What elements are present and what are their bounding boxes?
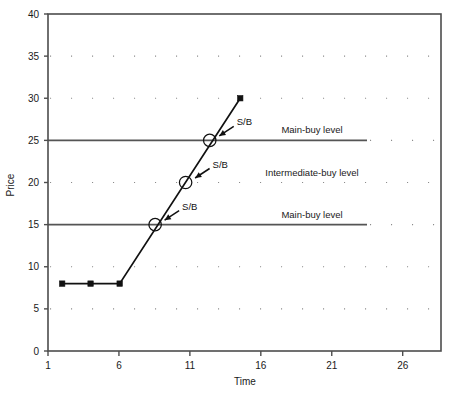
sb-annotation-label: S/B	[213, 159, 228, 170]
chart-canvas: 0510152025303540 1611162126 S/BS/BS/B Ma…	[0, 0, 452, 395]
x-axis-tick-label: 21	[326, 360, 338, 371]
chart-background	[0, 0, 452, 395]
price-data-marker	[238, 96, 243, 101]
x-axis-tick-label: 1	[45, 360, 51, 371]
y-axis-tick-label: 15	[28, 219, 40, 230]
price-time-chart: 0510152025303540 1611162126 S/BS/BS/B Ma…	[0, 0, 452, 395]
x-axis-title: Time	[234, 376, 256, 387]
sb-annotation-label: S/B	[237, 116, 252, 127]
y-axis-tick-label: 25	[28, 135, 40, 146]
buy-level-label: Main-buy level	[281, 124, 342, 135]
x-axis-tick-label: 16	[255, 360, 267, 371]
price-data-marker	[88, 281, 93, 286]
buy-level-label: Intermediate-buy level	[265, 167, 358, 178]
price-data-marker	[117, 281, 122, 286]
y-axis-tick-label: 10	[28, 261, 40, 272]
x-axis-tick-label: 26	[397, 360, 409, 371]
y-axis-tick-label: 30	[28, 93, 40, 104]
y-axis-tick-label: 0	[33, 346, 39, 357]
buy-level-label: Main-buy level	[281, 209, 342, 220]
y-axis-tick-label: 40	[28, 9, 40, 20]
price-data-marker	[59, 281, 64, 286]
y-axis-tick-label: 5	[33, 303, 39, 314]
y-axis-tick-label: 20	[28, 177, 40, 188]
y-axis-tick-label: 35	[28, 51, 40, 62]
sb-annotation-label: S/B	[182, 201, 197, 212]
y-axis-title: Price	[5, 173, 16, 196]
x-axis-tick-label: 11	[185, 360, 196, 371]
x-axis-tick-label: 6	[116, 360, 122, 371]
